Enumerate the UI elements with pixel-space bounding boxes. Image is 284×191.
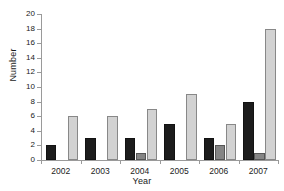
bar [186, 94, 197, 160]
y-tick-label: 20 [26, 10, 35, 18]
y-tick [37, 87, 41, 88]
bar [204, 138, 215, 160]
x-tick-label: 2007 [249, 166, 268, 176]
y-tick-label: 6 [31, 112, 35, 120]
x-tick-label: 2005 [170, 166, 189, 176]
bars-layer [42, 14, 279, 160]
y-tick [37, 116, 41, 117]
bar [254, 153, 265, 160]
y-tick-label: 2 [31, 141, 35, 149]
y-tick [37, 14, 41, 15]
x-tick [199, 160, 200, 164]
bar [243, 102, 254, 160]
x-tick [278, 160, 279, 164]
bar [147, 109, 158, 160]
x-tick [41, 160, 42, 164]
x-axis-label: Year [0, 176, 284, 186]
y-axis-label: Number [8, 30, 18, 100]
bar [46, 145, 57, 160]
y-tick-label: 4 [31, 127, 35, 135]
bar [107, 116, 118, 160]
y-tick-label: 14 [26, 54, 35, 62]
bar [215, 145, 226, 160]
y-tick [37, 131, 41, 132]
x-tick [160, 160, 161, 164]
x-tick [120, 160, 121, 164]
y-tick [37, 43, 41, 44]
x-tick-label: 2002 [51, 166, 70, 176]
x-tick [81, 160, 82, 164]
bar [265, 29, 276, 160]
y-tick-label: 0 [31, 156, 35, 164]
y-tick-label: 16 [26, 39, 35, 47]
bar [85, 138, 96, 160]
bar [164, 124, 175, 161]
y-tick-label: 8 [31, 98, 35, 106]
x-tick-label: 2003 [91, 166, 110, 176]
y-tick [37, 72, 41, 73]
y-tick [37, 29, 41, 30]
y-tick-label: 10 [26, 83, 35, 91]
x-tick-label: 2006 [209, 166, 228, 176]
x-tick-label: 2004 [130, 166, 149, 176]
x-tick [239, 160, 240, 164]
bar-chart: Number Year 02468101214161820 2002200320… [0, 0, 284, 191]
y-tick [37, 58, 41, 59]
y-tick-label: 18 [26, 25, 35, 33]
y-tick-label: 12 [26, 68, 35, 76]
y-tick [37, 145, 41, 146]
y-tick [37, 102, 41, 103]
bar [125, 138, 136, 160]
bar [136, 153, 147, 160]
plot-area: 02468101214161820 2002200320042005200620… [41, 14, 279, 160]
bar [226, 124, 237, 161]
bar [68, 116, 79, 160]
